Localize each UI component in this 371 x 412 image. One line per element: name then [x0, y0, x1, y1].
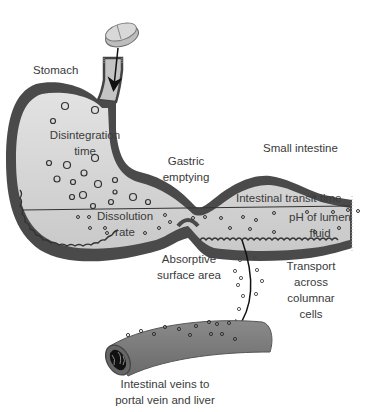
- esophagus: [98, 58, 122, 102]
- intestinal-vein: [100, 320, 271, 379]
- tablet-icon: [103, 19, 142, 50]
- label-dissolution-rate: Dissolution rate: [95, 208, 155, 240]
- label-small-intestine: Small intestine: [263, 140, 338, 156]
- label-stomach: Stomach: [33, 62, 78, 78]
- label-gastric-emptying: Gastric emptying: [156, 153, 216, 185]
- label-intestinal-veins: Intestinal veins to portal vein and live…: [95, 376, 235, 408]
- label-absorptive-surface-area: Absorptive surface area: [148, 251, 230, 283]
- label-intestinal-transit-time: Intestinal transit time: [236, 190, 341, 206]
- label-disintegration-time: Disintegration time: [37, 127, 133, 159]
- label-ph-lumen-fluid: pH of lumen fluid: [284, 209, 356, 241]
- label-transport-across-columnar-cells: Transport across columnar cells: [281, 258, 341, 322]
